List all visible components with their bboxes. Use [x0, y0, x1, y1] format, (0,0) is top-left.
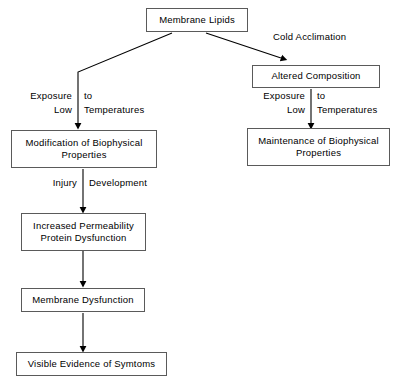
node-visible-evidence-label: Visible Evidence of Symtoms — [28, 358, 155, 371]
edge-label-left-exposure: Exposure — [12, 90, 72, 103]
node-maintenance-line-2: Properties — [296, 147, 341, 158]
node-modification-label: Modification of Biophysical Properties — [25, 137, 142, 162]
node-maintenance-biophysical-properties[interactable]: Maintenance of Biophysical Properties — [247, 128, 390, 166]
node-membrane-dysfunction-label: Membrane Dysfunction — [32, 294, 133, 307]
node-increased-permeability[interactable]: Increased Permeability Protein Dysfuncti… — [21, 213, 146, 251]
edge-label-left-temperatures: Temperatures — [84, 104, 144, 117]
node-membrane-dysfunction[interactable]: Membrane Dysfunction — [21, 288, 145, 312]
flowchart-diagram: Membrane Lipids Altered Composition Main… — [0, 0, 396, 390]
node-modification-line-1: Modification of Biophysical — [25, 137, 142, 148]
node-maintenance-label: Maintenance of Biophysical Properties — [258, 135, 379, 160]
node-permeability-line-2: Protein Dysfunction — [41, 232, 127, 243]
node-modification-line-2: Properties — [61, 149, 106, 160]
node-maintenance-line-1: Maintenance of Biophysical — [258, 135, 379, 146]
edge-label-right-to: to — [317, 90, 325, 103]
node-modification-biophysical-properties[interactable]: Modification of Biophysical Properties — [11, 130, 157, 168]
edge-label-left-low: Low — [12, 104, 72, 117]
node-altered-composition-label: Altered Composition — [271, 70, 360, 83]
connector-lines — [0, 0, 396, 390]
node-increased-permeability-label: Increased Permeability Protein Dysfuncti… — [33, 220, 134, 245]
edge-label-right-low: Low — [246, 104, 305, 117]
edge-label-right-exposure: Exposure — [246, 90, 305, 103]
edge-label-injury: Injury — [20, 177, 77, 190]
edge-label-right-temperatures: Temperatures — [317, 104, 377, 117]
edge-label-cold-acclimation: Cold Acclimation — [273, 31, 346, 44]
edge-label-left-to: to — [84, 90, 92, 103]
edge-label-development: Development — [89, 177, 147, 190]
node-membrane-lipids-label: Membrane Lipids — [159, 14, 235, 27]
node-visible-evidence[interactable]: Visible Evidence of Symtoms — [16, 352, 167, 376]
node-permeability-line-1: Increased Permeability — [33, 220, 134, 231]
node-altered-composition[interactable]: Altered Composition — [252, 65, 380, 88]
node-membrane-lipids[interactable]: Membrane Lipids — [146, 8, 248, 32]
